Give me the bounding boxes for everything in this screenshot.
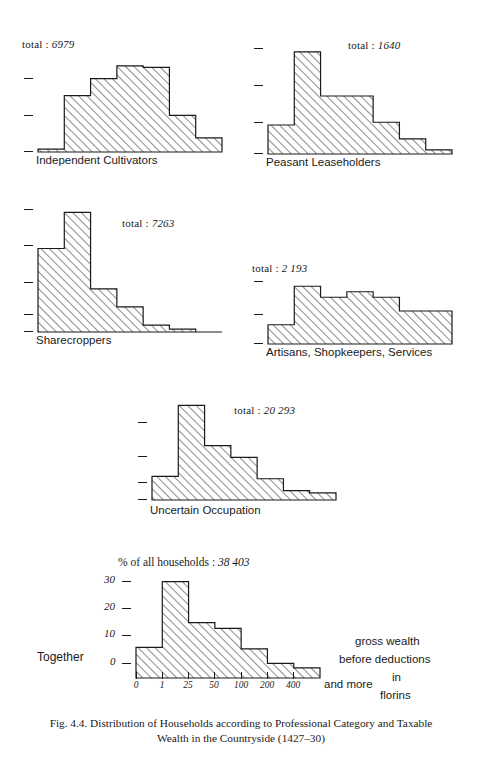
total-value: 6979 — [52, 38, 75, 50]
histogram-svg — [268, 278, 452, 344]
caption-line-1: Fig. 4.4. Distribution of Households acc… — [50, 717, 433, 729]
panel-independent-cultivators: total : 6979 Independent Cultivators — [22, 38, 222, 163]
y-tick — [254, 85, 263, 86]
x-tick-label: 0 — [126, 680, 146, 690]
panel-uncertain-occupation: total : 20 293 Uncertain Occupation — [136, 392, 351, 522]
x-tick — [162, 672, 163, 679]
total-value: 1640 — [378, 39, 401, 51]
y-tick — [24, 115, 33, 116]
y-tick — [122, 663, 131, 664]
caption-line-2: Wealth in the Countryside (1427–30) — [157, 732, 325, 744]
x-tick — [267, 672, 268, 679]
histogram-svg — [136, 570, 320, 678]
histogram-svg — [268, 38, 452, 154]
x-tick-label: 25 — [178, 680, 198, 690]
panel-peasant-leaseholders: total : 1640 Peasant Leaseholders — [252, 26, 462, 166]
y-tick — [24, 282, 33, 283]
y-tick — [254, 343, 263, 344]
y-tick — [138, 499, 147, 500]
note-before-deductions: before deductions — [339, 653, 430, 665]
y-tick — [138, 482, 147, 483]
y-tick — [24, 209, 33, 210]
y-tick — [122, 635, 131, 636]
panel-plot: 30 20 10 0 0 1 25 50 100 200 400 — [136, 570, 320, 678]
x-tick — [188, 672, 189, 679]
panel-artisans-shopkeepers-services: total : 2 193 Artisans, Shopkeepers, Ser… — [252, 262, 467, 362]
panel-plot — [268, 38, 452, 154]
panel-total-label: total : 1640 — [348, 39, 401, 51]
y-tick-label: 0 — [110, 655, 116, 667]
y-tick — [254, 122, 263, 123]
total-prefix: total : — [22, 38, 49, 50]
total-prefix: total : — [122, 217, 149, 229]
total-prefix: total : — [252, 262, 279, 274]
note-florins: florins — [380, 689, 411, 701]
x-tick-label: 50 — [204, 680, 224, 690]
panel-total-label: total : 20 293 — [234, 404, 295, 416]
y-tick — [24, 78, 33, 79]
note-gross-wealth: gross wealth — [355, 635, 420, 647]
panel-total-label: total : 6979 — [22, 38, 75, 50]
pct-of-all-households-title: % of all households : 38 403 — [118, 556, 250, 568]
panel-category-label: Sharecroppers — [36, 334, 111, 346]
y-tick — [24, 151, 33, 152]
y-tick — [254, 48, 263, 49]
y-tick — [138, 422, 147, 423]
x-tick — [241, 672, 242, 679]
x-tick — [293, 672, 294, 679]
y-tick — [138, 456, 147, 457]
x-tick — [214, 672, 215, 679]
panel-plot — [38, 56, 222, 152]
y-tick-label: 20 — [104, 600, 115, 612]
panel-category-label: Independent Cultivators — [36, 154, 157, 166]
note-in: in — [392, 671, 401, 683]
x-tick-label: 400 — [283, 680, 303, 690]
panel-category-label: Uncertain Occupation — [150, 504, 261, 516]
panel-total-label: total : 7263 — [122, 217, 175, 229]
x-tick-label: 200 — [257, 680, 277, 690]
together-row-label: Together — [37, 650, 84, 664]
y-tick — [254, 153, 263, 154]
total-prefix: total : — [348, 39, 375, 51]
panel-plot — [268, 278, 452, 344]
x-tick-label: 100 — [231, 680, 251, 690]
pct-title-prefix: % of all households : — [118, 556, 215, 568]
x-tick — [136, 672, 137, 679]
panel-total-label: total : 2 193 — [252, 262, 307, 274]
y-tick — [24, 314, 33, 315]
histogram-svg — [38, 56, 222, 152]
y-tick — [254, 281, 263, 282]
y-tick — [122, 581, 131, 582]
y-tick — [24, 245, 33, 246]
total-value: 20 293 — [264, 404, 295, 416]
total-prefix: total : — [234, 404, 261, 416]
x-tick-label: 1 — [152, 680, 172, 690]
total-value: 2 193 — [282, 262, 308, 274]
total-value: 7263 — [152, 217, 175, 229]
y-tick — [122, 608, 131, 609]
y-tick — [254, 314, 263, 315]
panel-sharecroppers: total : 7263 Sharecroppers — [22, 200, 222, 350]
y-tick — [24, 331, 33, 332]
panel-category-label: Artisans, Shopkeepers, Services — [266, 346, 432, 358]
panel-together: % of all households : 38 403 30 20 10 0 … — [136, 556, 436, 701]
x-axis-and-more-label: and more — [324, 678, 373, 690]
figure-caption: Fig. 4.4. Distribution of Households acc… — [18, 716, 464, 747]
pct-title-value: 38 403 — [218, 556, 250, 568]
y-tick-label: 10 — [104, 627, 115, 639]
panel-category-label: Peasant Leaseholders — [266, 156, 380, 168]
y-tick-label: 30 — [104, 573, 115, 585]
